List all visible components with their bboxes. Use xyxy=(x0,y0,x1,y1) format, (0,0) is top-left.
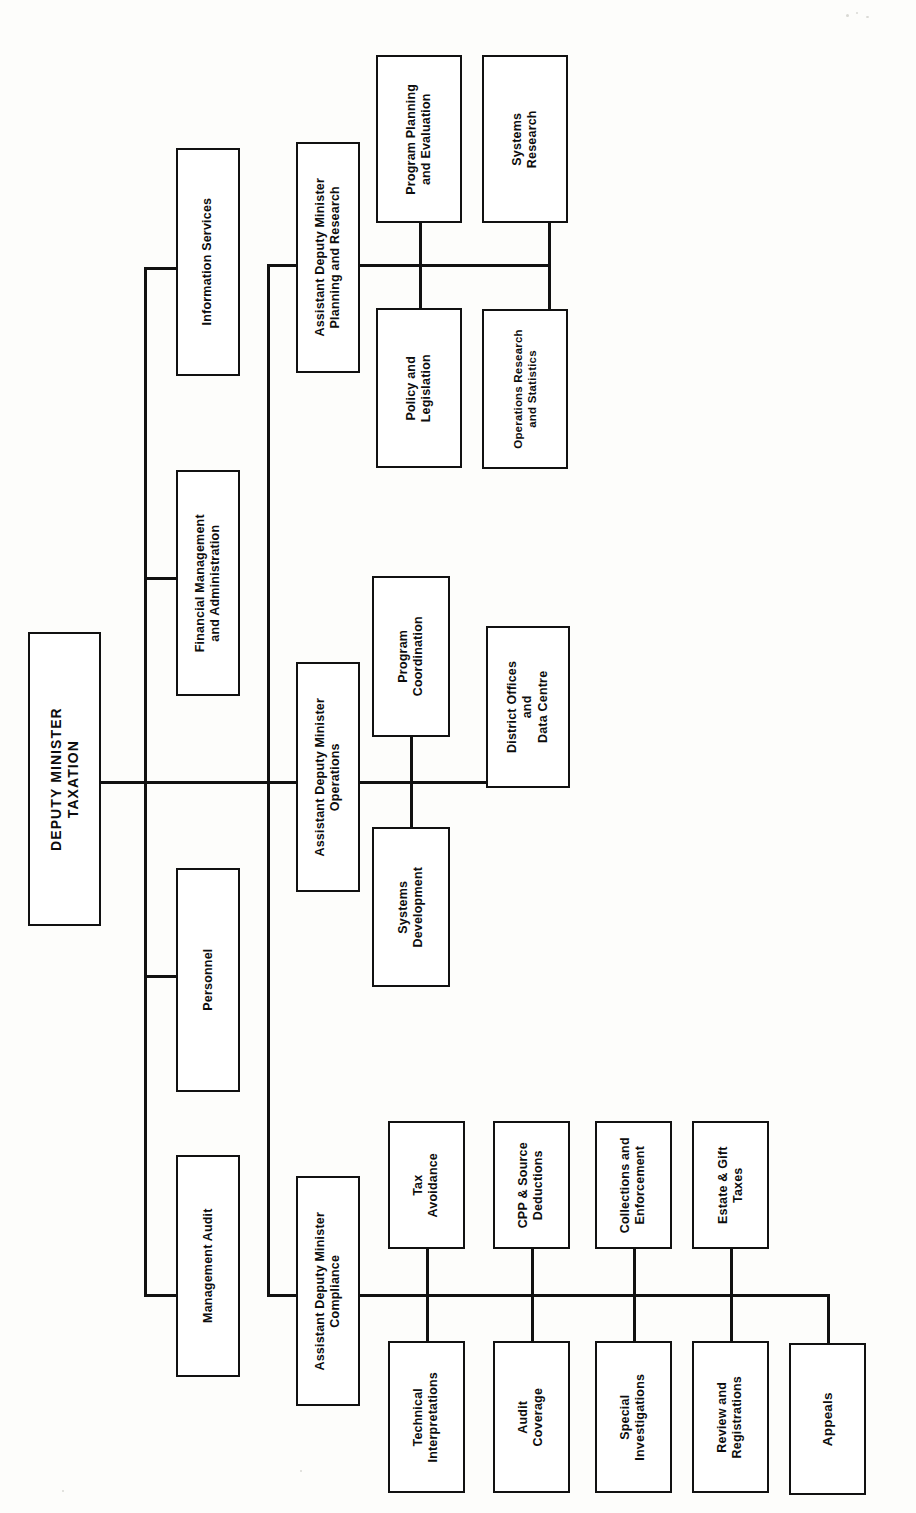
node-collections-enforcement-label: Collections and Enforcement xyxy=(618,1137,649,1233)
node-program-coordination[interactable]: Program Coordination xyxy=(372,576,450,737)
node-estate-gift-taxes[interactable]: Estate & Gift Taxes xyxy=(692,1121,769,1249)
riser-operations-research xyxy=(548,264,551,310)
riser-systems-research xyxy=(548,222,551,266)
node-technical-interpretations[interactable]: Technical Interpretations xyxy=(388,1341,465,1493)
stub-adm-operations xyxy=(267,781,297,784)
node-management-audit-label: Management Audit xyxy=(200,1209,215,1324)
node-program-planning-evaluation[interactable]: Program Planning and Evaluation xyxy=(376,55,462,223)
riser-audit-coverage xyxy=(531,1294,534,1342)
node-systems-development[interactable]: Systems Development xyxy=(372,827,450,987)
node-adm-planning-label: Assistant Deputy Minister Planning and R… xyxy=(313,178,344,337)
node-policy-legislation[interactable]: Policy and Legislation xyxy=(376,308,462,468)
stub-adm-planning xyxy=(267,264,297,267)
node-special-investigations-label: Special Investigations xyxy=(618,1374,649,1461)
riser-program-planning xyxy=(419,222,422,266)
stub-management-audit xyxy=(144,1294,176,1297)
scan-speck xyxy=(856,12,858,14)
node-personnel-label: Personnel xyxy=(200,949,215,1011)
spine-adm xyxy=(267,264,270,1296)
node-technical-interpretations-label: Technical Interpretations xyxy=(411,1372,442,1463)
node-special-investigations[interactable]: Special Investigations xyxy=(595,1341,672,1493)
node-operations-research-label: Operations Research and Statistics xyxy=(511,329,539,449)
node-financial-management[interactable]: Financial Management and Administration xyxy=(176,470,240,696)
node-cpp-source-deductions-label: CPP & Source Deductions xyxy=(516,1142,547,1228)
riser-policy-legislation xyxy=(419,264,422,309)
trunk-compliance xyxy=(360,1294,830,1297)
riser-cpp-source-deductions xyxy=(531,1248,534,1296)
riser-systems-development xyxy=(410,781,413,828)
scan-speck xyxy=(846,14,849,17)
scan-speck xyxy=(866,16,869,18)
node-program-planning-evaluation-label: Program Planning and Evaluation xyxy=(404,84,435,195)
riser-program-coordination xyxy=(410,736,413,783)
node-review-registrations-label: Review and Registrations xyxy=(715,1376,746,1458)
node-audit-coverage-label: Audit Coverage xyxy=(516,1388,547,1447)
node-review-registrations[interactable]: Review and Registrations xyxy=(692,1341,769,1493)
node-tax-avoidance[interactable]: Tax Avoidance xyxy=(388,1121,465,1249)
node-collections-enforcement[interactable]: Collections and Enforcement xyxy=(595,1121,672,1249)
node-cpp-source-deductions[interactable]: CPP & Source Deductions xyxy=(493,1121,570,1249)
node-deputy-minister[interactable]: DEPUTY MINISTER TAXATION xyxy=(28,632,101,926)
node-systems-development-label: Systems Development xyxy=(396,867,427,948)
spine-staff xyxy=(144,268,147,1296)
trunk-main xyxy=(100,781,275,784)
node-information-services[interactable]: Information Services xyxy=(176,148,240,376)
node-program-coordination-label: Program Coordination xyxy=(396,616,427,696)
stub-financial-management xyxy=(144,577,176,580)
node-appeals[interactable]: Appeals xyxy=(789,1343,866,1495)
node-financial-management-label: Financial Management and Administration xyxy=(193,514,224,652)
node-adm-planning[interactable]: Assistant Deputy Minister Planning and R… xyxy=(296,142,360,373)
node-adm-compliance[interactable]: Assistant Deputy Minister Compliance xyxy=(296,1176,360,1406)
node-personnel[interactable]: Personnel xyxy=(176,868,240,1092)
node-systems-research-label: Systems Research xyxy=(510,110,541,168)
node-estate-gift-taxes-label: Estate & Gift Taxes xyxy=(715,1146,746,1224)
node-appeals-label: Appeals xyxy=(819,1392,835,1446)
node-adm-operations[interactable]: Assistant Deputy Minister Operations xyxy=(296,662,360,892)
riser-technical-interpretations xyxy=(426,1294,429,1342)
riser-appeals xyxy=(827,1294,830,1344)
node-information-services-label: Information Services xyxy=(200,198,215,326)
node-management-audit[interactable]: Management Audit xyxy=(176,1155,240,1377)
org-chart-canvas: DEPUTY MINISTER TAXATION Information Ser… xyxy=(0,0,916,1513)
stub-information-services xyxy=(144,267,176,270)
node-policy-legislation-label: Policy and Legislation xyxy=(404,354,435,422)
riser-special-investigations xyxy=(633,1294,636,1342)
node-audit-coverage[interactable]: Audit Coverage xyxy=(493,1341,570,1493)
node-district-offices[interactable]: District Offices and Data Centre xyxy=(486,626,570,788)
node-tax-avoidance-label: Tax Avoidance xyxy=(411,1153,442,1218)
node-adm-compliance-label: Assistant Deputy Minister Compliance xyxy=(313,1212,344,1371)
scan-speck xyxy=(62,1490,64,1492)
node-operations-research[interactable]: Operations Research and Statistics xyxy=(482,309,568,469)
node-district-offices-label: District Offices and Data Centre xyxy=(505,661,551,753)
trunk-planning xyxy=(360,264,550,267)
node-deputy-minister-label: DEPUTY MINISTER TAXATION xyxy=(47,707,81,851)
riser-review-registrations xyxy=(730,1294,733,1342)
node-systems-research[interactable]: Systems Research xyxy=(482,55,568,223)
stub-personnel xyxy=(144,975,176,978)
stub-adm-compliance xyxy=(267,1294,297,1297)
node-adm-operations-label: Assistant Deputy Minister Operations xyxy=(313,698,344,857)
riser-estate-gift-taxes xyxy=(730,1248,733,1296)
scan-speck xyxy=(300,1470,302,1472)
riser-collections-enforcement xyxy=(633,1248,636,1296)
riser-tax-avoidance xyxy=(426,1248,429,1296)
